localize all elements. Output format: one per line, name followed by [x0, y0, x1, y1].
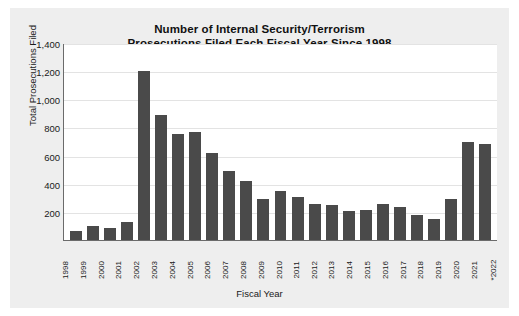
bar-2012 — [309, 204, 321, 240]
bar-slot — [409, 44, 426, 240]
bar-slot — [152, 44, 169, 240]
bar-slot — [289, 44, 306, 240]
bar-slot — [391, 44, 408, 240]
bar-slot — [323, 44, 340, 240]
bar-1999 — [87, 226, 99, 240]
bar-2005 — [189, 132, 201, 240]
y-tick-label: 200 — [14, 207, 60, 218]
bar-slot — [443, 44, 460, 240]
bar-2011 — [292, 197, 304, 240]
y-tick-label: 600 — [14, 151, 60, 162]
bar-2018 — [411, 215, 423, 240]
bar-2000 — [104, 228, 116, 240]
x-tick-slot: *2022 — [493, 244, 514, 284]
bar-slot — [67, 44, 84, 240]
bar-slot — [118, 44, 135, 240]
bar-2016 — [377, 204, 389, 240]
y-axis-ticks: 2004006008001,0001,2001,400 — [10, 44, 60, 241]
bar-2022 — [479, 144, 491, 240]
bar-slot — [477, 44, 494, 240]
x-axis-ticks: 1998199920002001200220032004200520062007… — [63, 244, 497, 284]
bar-2006 — [206, 153, 218, 240]
y-tick-label: 800 — [14, 123, 60, 134]
y-tick-label: 1,200 — [14, 67, 60, 78]
bar-slot — [272, 44, 289, 240]
bar-2017 — [394, 207, 406, 240]
bar-slot — [460, 44, 477, 240]
bar-slot — [340, 44, 357, 240]
bar-series — [64, 44, 497, 240]
bar-slot — [221, 44, 238, 240]
bar-2008 — [240, 181, 252, 240]
bar-2003 — [155, 115, 167, 240]
bar-2020 — [445, 199, 457, 240]
bar-2004 — [172, 134, 184, 240]
bar-2002 — [138, 71, 150, 240]
bar-slot — [306, 44, 323, 240]
y-tick-label: 1,400 — [14, 39, 60, 50]
bar-2001 — [121, 222, 133, 240]
bar-slot — [84, 44, 101, 240]
bar-slot — [255, 44, 272, 240]
bar-2021 — [462, 142, 474, 241]
bar-2015 — [360, 210, 372, 240]
y-tick-label: 400 — [14, 179, 60, 190]
bar-1998 — [70, 231, 82, 240]
bar-2013 — [326, 205, 338, 240]
bar-2007 — [223, 171, 235, 240]
plot-area — [63, 44, 497, 241]
bar-2014 — [343, 211, 355, 240]
bar-slot — [357, 44, 374, 240]
bar-slot — [169, 44, 186, 240]
bar-2019 — [428, 219, 440, 240]
bar-slot — [135, 44, 152, 240]
x-axis-label: Fiscal Year — [10, 288, 509, 299]
x-tick-label: *2022 — [489, 260, 517, 281]
chart-title-line-1: Number of Internal Security/Terrorism — [10, 22, 509, 36]
bar-slot — [187, 44, 204, 240]
bar-slot — [426, 44, 443, 240]
y-tick-label: 1,000 — [14, 95, 60, 106]
bar-slot — [101, 44, 118, 240]
bar-slot — [238, 44, 255, 240]
chart-figure: Number of Internal Security/Terrorism Pr… — [10, 8, 509, 308]
bar-slot — [204, 44, 221, 240]
bar-slot — [374, 44, 391, 240]
bar-2009 — [257, 199, 269, 240]
bar-2010 — [275, 191, 287, 240]
